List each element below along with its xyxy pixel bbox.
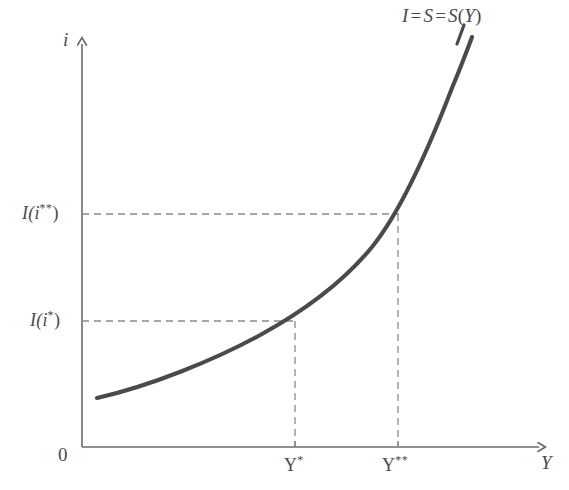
- curve-label-S1: S: [423, 5, 433, 26]
- curve-label-eq1: =: [409, 5, 424, 26]
- curve-label-leader: [457, 25, 464, 44]
- y-tick-label-low: I(i*): [30, 310, 60, 329]
- y-tick-high-base: I(i: [22, 203, 40, 223]
- x-tick-label-high: Y**: [382, 455, 408, 474]
- diagram-canvas: [0, 0, 569, 490]
- x-tick-high-superscript: **: [395, 453, 408, 467]
- x-tick-low-base: Y: [284, 455, 297, 475]
- y-tick-low-base: I(i: [30, 310, 48, 330]
- y-tick-low-close: ): [54, 310, 60, 330]
- y-tick-high-close: ): [52, 203, 58, 223]
- origin-label: 0: [58, 445, 68, 464]
- curve-label-S2: S: [448, 5, 458, 26]
- y-tick-label-high: I(i**): [22, 203, 59, 222]
- x-tick-low-superscript: *: [297, 453, 303, 467]
- curve-label-Y: Y: [464, 5, 475, 26]
- curve-label-I: I: [402, 5, 409, 26]
- x-tick-label-low: Y*: [284, 455, 304, 474]
- savings-investment-curve: [97, 37, 472, 398]
- y-axis-label: i: [63, 30, 68, 49]
- curve-label-close-paren: ): [475, 5, 482, 26]
- curve-label-eq2: =: [433, 5, 448, 26]
- y-tick-high-superscript: **: [40, 201, 53, 215]
- curve-equation-label: I=S=S(Y): [402, 6, 482, 25]
- investment-savings-diagram: I=S=S(Y) i Y 0 I(i**) I(i*) Y* Y**: [0, 0, 569, 490]
- x-tick-high-base: Y: [382, 455, 395, 475]
- x-axis-label: Y: [541, 453, 552, 472]
